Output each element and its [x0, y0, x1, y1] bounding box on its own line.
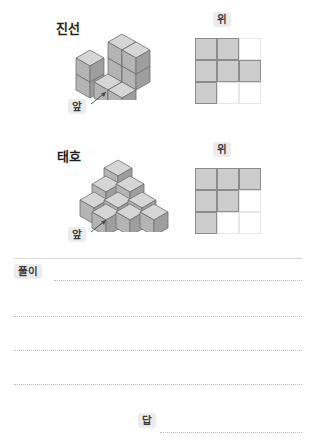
grid-cell — [239, 168, 261, 190]
solution-write-line-3[interactable] — [14, 350, 302, 351]
front-label-taeho: 앞 — [68, 227, 86, 242]
grid-cell — [239, 212, 261, 234]
grid-cell — [217, 60, 239, 82]
front-marker-taeho: 앞 — [68, 224, 86, 242]
top-view-grid-taeho — [195, 168, 261, 234]
grid-cell — [239, 82, 261, 104]
grid-cell — [195, 168, 217, 190]
answer-area-top-divider — [14, 258, 302, 259]
solution-write-line-1[interactable] — [54, 280, 302, 281]
front-label-jinseon: 앞 — [68, 99, 86, 114]
grid-cell — [195, 38, 217, 60]
answer-area: 풀이 답 — [0, 258, 315, 441]
grid-cell — [195, 82, 217, 104]
grid-cell — [217, 38, 239, 60]
solution-label: 풀이 — [14, 264, 42, 279]
cube-figure-jinseon-svg — [62, 28, 170, 100]
grid-cell — [217, 168, 239, 190]
grid-cell — [217, 190, 239, 212]
answer-label: 답 — [138, 413, 156, 428]
grid-cell — [195, 190, 217, 212]
problem-jinseon: 진선 — [0, 0, 315, 132]
grid-cell — [239, 60, 261, 82]
grid-cell — [217, 212, 239, 234]
top-view-grid-jinseon — [195, 38, 261, 104]
solution-write-line-2[interactable] — [14, 316, 302, 317]
top-label-jinseon: 위 — [213, 12, 231, 27]
front-marker-jinseon: 앞 — [68, 96, 86, 114]
front-arrow-icon-jinseon — [90, 89, 112, 107]
grid-cell — [239, 190, 261, 212]
grid-cell — [217, 82, 239, 104]
solution-write-line-4[interactable] — [14, 384, 302, 385]
top-label-taeho: 위 — [213, 142, 231, 157]
problem-taeho: 태호 — [0, 128, 315, 256]
grid-cell — [195, 212, 217, 234]
grid-cell — [239, 38, 261, 60]
answer-write-line[interactable] — [160, 432, 302, 433]
front-arrow-icon-taeho — [90, 217, 112, 235]
grid-cell — [195, 60, 217, 82]
cube-figure-jinseon — [62, 28, 170, 100]
